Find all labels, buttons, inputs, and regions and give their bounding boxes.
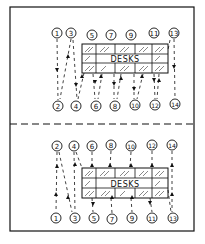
node-label: 3 [73, 215, 77, 223]
node-label: 10 [127, 143, 135, 150]
bottom-nodes: 2 4 6 8 10 12 14 [53, 99, 180, 111]
node-label: 1 [55, 30, 59, 38]
node-label: 1 [54, 215, 58, 223]
desk-label: DESKS [110, 55, 139, 64]
node-label: 14 [168, 142, 176, 149]
node-label: 2 [56, 103, 60, 111]
node-label: 4 [74, 103, 79, 111]
bottom-nodes: 1 3 5 7 9 11 13 [51, 213, 178, 224]
node-label: 12 [148, 142, 156, 149]
node-label: 8 [113, 103, 117, 111]
node-label: 14 [171, 101, 179, 108]
node-label: 5 [90, 32, 94, 40]
node-label: 7 [109, 32, 113, 40]
desk-grid: DESKS [82, 168, 168, 198]
node-label: 13 [169, 215, 177, 222]
node-label: 9 [129, 32, 133, 40]
node-label: 6 [90, 143, 95, 151]
node-label: 11 [150, 30, 159, 38]
node-label: 8 [109, 142, 113, 150]
top-nodes: 2 4 6 8 10 12 14 [52, 140, 177, 151]
node-label: 5 [92, 215, 96, 223]
desk-grid: DESKS [82, 44, 168, 73]
node-label: 13 [170, 30, 179, 38]
node-label: 12 [151, 102, 159, 109]
node-label: 6 [94, 103, 99, 111]
top-panel: DESKS 1 3 5 7 9 11 13 2 4 6 [52, 28, 180, 111]
bottom-panel: DESKS 2 4 6 8 10 12 14 1 3 5 7 [51, 140, 178, 224]
node-label: 10 [131, 102, 139, 109]
seating-diagram: DESKS 1 3 5 7 9 11 13 2 4 6 [0, 0, 205, 244]
node-label: 11 [148, 215, 156, 222]
node-label: 4 [72, 143, 77, 151]
node-label: 7 [110, 216, 114, 224]
desk-label: DESKS [110, 180, 139, 189]
node-label: 3 [69, 30, 73, 38]
node-label: 2 [55, 143, 59, 151]
node-label: 9 [130, 215, 134, 223]
top-nodes: 1 3 5 7 9 11 13 [52, 28, 179, 40]
